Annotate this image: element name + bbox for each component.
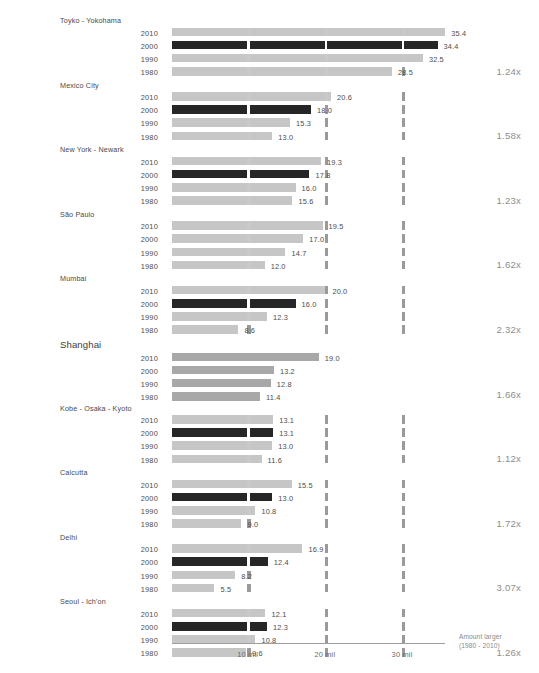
bar [172, 622, 267, 631]
gridline-tick [325, 28, 329, 37]
gridline-tick [325, 506, 329, 515]
bar [172, 234, 303, 243]
gridline-tick [247, 170, 250, 179]
bar [172, 493, 272, 502]
bar-value-label: 9.0 [247, 520, 258, 529]
bar-year-label: 2000 [0, 171, 158, 180]
bar-value-label: 10.8 [261, 507, 276, 516]
bar-year-label: 1980 [0, 197, 158, 206]
bar-row: 199012.8 [0, 378, 539, 391]
bar-value-label: 16.9 [308, 545, 323, 554]
gridline-tick [247, 105, 250, 114]
growth-multiplier: 1.23x [497, 195, 521, 206]
gridline-tick [402, 506, 406, 515]
bar-year-label: 2000 [0, 494, 158, 503]
gridline-tick [402, 415, 406, 424]
bar-year-label: 2000 [0, 300, 158, 309]
bar-year-label: 2010 [0, 545, 158, 554]
bar-year-label: 1990 [0, 636, 158, 645]
city-group: Mexico City201020.6200018.0199015.319801… [0, 81, 539, 146]
gridline-tick [325, 571, 329, 580]
bar-value-label: 20.0 [332, 287, 347, 296]
bar-year-label: 2000 [0, 106, 158, 115]
bar-row: 200034.4 [0, 40, 539, 53]
city-label: Mexico City [60, 81, 99, 90]
gridline-tick [402, 221, 406, 230]
growth-multiplier: 1.66x [497, 389, 521, 400]
gridline-tick [325, 519, 329, 528]
gridline-tick [325, 325, 329, 334]
gridline-tick [325, 584, 329, 593]
growth-multiplier: 2.32x [497, 324, 521, 335]
bar-year-label: 1990 [0, 442, 158, 451]
gridline-tick [247, 506, 251, 515]
gridline-tick [402, 54, 406, 63]
gridline-tick [325, 299, 329, 308]
gridline-tick [325, 544, 329, 553]
gridline-tick [325, 428, 329, 437]
bar-year-label: 2000 [0, 367, 158, 376]
gridline-tick [247, 132, 251, 141]
gridline-tick [402, 248, 406, 257]
bar-row: 200013.2 [0, 365, 539, 378]
gridline-tick [325, 286, 329, 295]
city-label: Kobe - Osaka - Kyoto [60, 404, 132, 413]
bar-year-label: 1980 [0, 326, 158, 335]
bar-row: 201015.5 [0, 479, 539, 492]
bar-row: 198012.0 [0, 260, 539, 273]
bar-year-label: 2000 [0, 558, 158, 567]
gridline-tick [325, 557, 329, 566]
bar-row: 19809.0 [0, 519, 539, 532]
bar-year-label: 1990 [0, 249, 158, 258]
gridline-tick [325, 480, 329, 489]
bar [172, 428, 273, 437]
gridline-tick [325, 312, 329, 321]
bar-value-label: 13.1 [279, 416, 294, 425]
gridline-tick [325, 41, 328, 50]
bar [172, 92, 331, 101]
gridline-tick [402, 41, 405, 50]
bar-row: 200012.4 [0, 557, 539, 570]
bar-row: 198028.5 [0, 67, 539, 80]
gridline-tick [325, 183, 329, 192]
gridline-tick [402, 609, 406, 618]
gridline-tick [402, 286, 406, 295]
bar [172, 248, 285, 257]
gridline-tick [402, 557, 406, 566]
bar-value-label: 15.6 [298, 197, 313, 206]
bar-value-label: 18.0 [317, 106, 332, 115]
bar [172, 366, 274, 375]
city-label: Toyko - Yokohama [60, 16, 121, 25]
city-group: Kobe - Osaka - Kyoto201013.1200013.11990… [0, 404, 539, 469]
city-group: Calcutta201015.5200013.0199010.819809.01… [0, 468, 539, 533]
bar-value-label: 15.3 [296, 119, 311, 128]
bar-value-label: 12.0 [271, 262, 286, 271]
city-group: São Paulo201019.5200017.0199014.7198012.… [0, 210, 539, 275]
bar-value-label: 8.2 [241, 572, 252, 581]
bar-year-label: 2000 [0, 235, 158, 244]
bar-value-label: 12.3 [273, 623, 288, 632]
bar-row: 199013.0 [0, 441, 539, 454]
city-label: Seoul - Ich'on [60, 597, 106, 606]
bar-row: 200013.0 [0, 492, 539, 505]
bar [172, 132, 272, 141]
city-group: New York - Newark201019.3200017.8199016.… [0, 145, 539, 210]
x-axis-tick-label-10mil: 10 mil [237, 650, 258, 659]
bar-value-label: 13.0 [278, 133, 293, 142]
gridline-tick [325, 118, 329, 127]
bar-row: 200017.0 [0, 234, 539, 247]
gridline-tick [402, 92, 406, 101]
bar [172, 105, 311, 114]
gridline-tick [325, 441, 329, 450]
bar-value-label: 11.6 [268, 456, 282, 465]
city-label: Delhi [60, 533, 77, 542]
bar-value-label: 17.0 [309, 235, 324, 244]
bar-value-label: 11.4 [266, 393, 280, 402]
bar-row: 199015.3 [0, 118, 539, 131]
bar-row: 201019.3 [0, 156, 539, 169]
bar-value-label: 12.3 [273, 313, 288, 322]
city-group: Shanghai201019.0200013.2199012.8198011.4… [0, 339, 539, 404]
city-label: Mumbai [60, 274, 86, 283]
city-label: Shanghai [60, 339, 101, 350]
bar-row: 19808.6 [0, 325, 539, 338]
